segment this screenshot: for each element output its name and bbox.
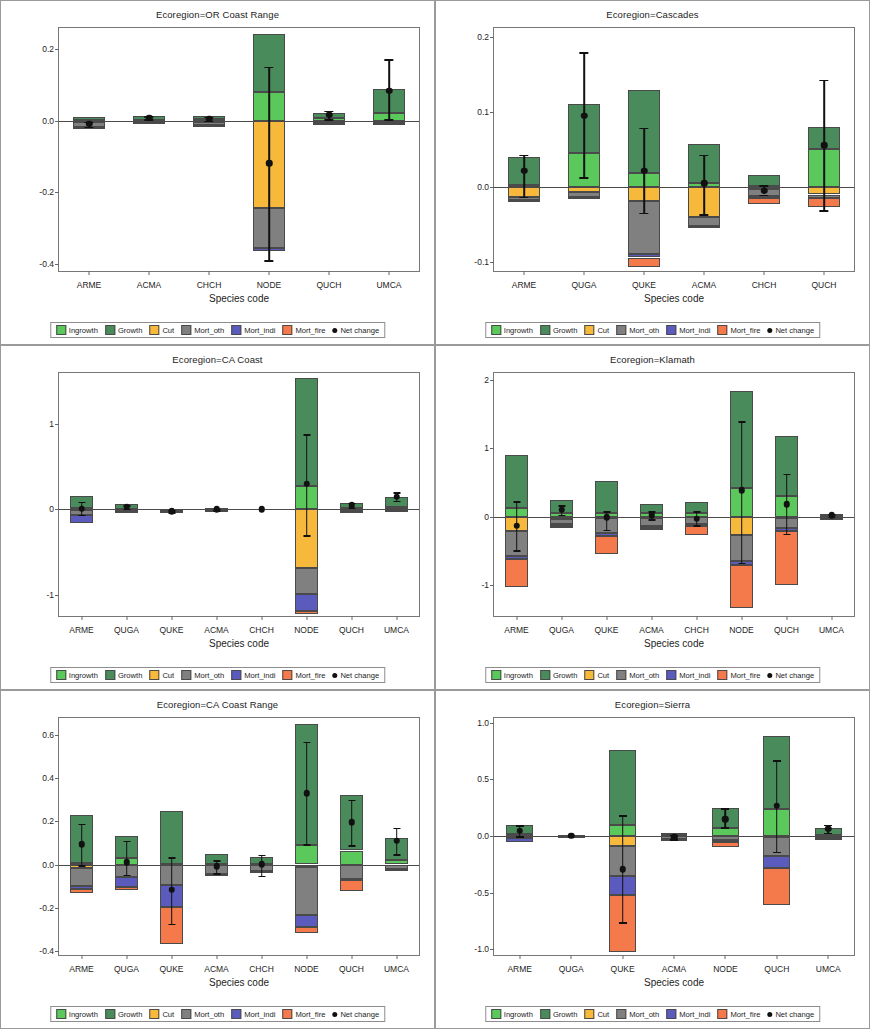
y-tick-label: 0.5 — [477, 774, 489, 784]
y-tick-mark — [490, 723, 494, 724]
bar-segment-mort_fire — [505, 559, 528, 587]
error-bar-cap — [393, 501, 400, 503]
x-tick-label: ACMA — [137, 280, 162, 290]
plot-area: 10-1ARMEQUGAQUKEACMACHCHNODEQUCHUMCA — [58, 372, 420, 617]
net-change-point — [258, 506, 265, 513]
x-tick-mark — [606, 616, 607, 620]
legend-label: Mort_fire — [730, 1010, 760, 1019]
legend-label: Growth — [553, 1010, 577, 1019]
y-tick-label: 0.0 — [477, 831, 489, 841]
error-bar-cap — [513, 501, 520, 503]
y-tick-label: 1 — [484, 443, 489, 453]
x-tick-mark — [126, 955, 127, 959]
legend-label: Growth — [118, 1010, 142, 1019]
legend-swatch-icon — [56, 1009, 66, 1019]
legend-swatch-icon — [105, 1009, 115, 1019]
x-tick-label: NODE — [729, 625, 754, 635]
y-tick-label: 0.1 — [477, 107, 489, 117]
legend-label: Mort_fire — [730, 326, 760, 335]
panel-title: Ecoregion=OR Coast Range — [1, 9, 434, 20]
y-tick-label: -1.0 — [474, 944, 489, 954]
legend-label: Growth — [553, 326, 577, 335]
legend-item: Ingrowth — [56, 1009, 98, 1019]
legend-label: Mort_oth — [629, 1010, 659, 1019]
net-change-point — [821, 142, 828, 149]
legend-label: Cut — [597, 671, 609, 680]
legend-swatch-icon — [149, 1009, 159, 1019]
net-change-point — [393, 838, 400, 845]
bar-segment-mort_indi — [763, 856, 790, 868]
error-bar-cap — [579, 52, 588, 54]
bar-segment-mort_fire — [748, 198, 779, 204]
x-tick-mark — [644, 271, 645, 275]
bar-segment-mort_indi — [193, 125, 224, 127]
bar-segment-mort_indi — [508, 200, 539, 202]
legend-item: Net change — [332, 1010, 379, 1019]
x-tick-label: QUKE — [159, 625, 183, 635]
x-tick-label: QUCH — [811, 280, 836, 290]
error-bar-cap — [824, 833, 832, 835]
net-change-point — [303, 481, 310, 488]
bar-segment-growth — [505, 455, 528, 508]
legend-item: Mort_oth — [616, 670, 659, 680]
legend: IngrowthGrowthCutMort_othMort_indiMort_f… — [485, 1006, 820, 1022]
error-bar-cap — [639, 128, 648, 130]
bar-segment-mort_fire — [628, 258, 659, 267]
x-tick-mark — [696, 616, 697, 620]
legend-label: Growth — [118, 326, 142, 335]
legend-swatch-icon — [181, 1009, 191, 1019]
x-axis-label: Species code — [493, 977, 855, 988]
x-tick-label: QUGA — [549, 625, 574, 635]
x-tick-label: CHCH — [197, 280, 222, 290]
x-tick-label: UMCA — [816, 964, 841, 974]
legend-label: Growth — [118, 671, 142, 680]
legend-swatch-icon — [491, 1009, 501, 1019]
y-tick-label: -1 — [46, 590, 54, 600]
legend-item: Ingrowth — [491, 325, 533, 335]
y-tick-label: 0.2 — [42, 44, 54, 54]
legend-swatch-icon — [717, 670, 727, 680]
legend-label: Mort_indi — [244, 326, 275, 335]
legend-swatch-icon — [717, 325, 727, 335]
error-bar-cap — [773, 852, 781, 854]
y-tick-mark — [55, 908, 59, 909]
legend-swatch-icon — [231, 325, 241, 335]
error-bar-cap — [819, 80, 828, 82]
legend-item: Mort_indi — [231, 670, 275, 680]
bar-segment-mort_indi — [373, 123, 404, 125]
legend-item: Mort_oth — [616, 325, 659, 335]
x-tick-label: ARME — [507, 964, 532, 974]
net-change-point — [258, 861, 265, 868]
bar-segment-mort_fire — [295, 611, 318, 614]
error-bar-cap — [78, 824, 85, 826]
bar-segment-mort_indi — [313, 123, 344, 125]
legend: IngrowthGrowthCutMort_othMort_indiMort_f… — [485, 667, 820, 683]
legend-label: Mort_fire — [730, 671, 760, 680]
y-tick-mark — [55, 595, 59, 596]
panel-title: Ecoregion=CA Coast Range — [1, 699, 434, 710]
legend-swatch-icon — [717, 1009, 727, 1019]
net-change-dot-icon — [767, 1012, 772, 1017]
bar-segment-mort_indi — [133, 122, 164, 124]
legend-label: Cut — [162, 671, 174, 680]
y-tick-label: 0.2 — [42, 816, 54, 826]
x-tick-mark — [725, 955, 726, 959]
error-bar-cap — [603, 530, 610, 532]
y-tick-label: 0.4 — [42, 773, 54, 783]
legend-label: Cut — [597, 326, 609, 335]
bar-segment-mort_fire — [730, 565, 753, 608]
net-change-point — [146, 114, 153, 121]
x-tick-label: ACMA — [204, 625, 229, 635]
legend-label: Mort_indi — [679, 326, 710, 335]
legend-item: Mort_indi — [666, 670, 710, 680]
error-bar-cap — [648, 519, 655, 521]
x-tick-mark — [674, 955, 675, 959]
legend-swatch-icon — [181, 325, 191, 335]
legend-item: Ingrowth — [56, 325, 98, 335]
error-bar-cap — [603, 511, 610, 513]
y-tick-mark — [490, 585, 494, 586]
bar-segment-growth — [609, 750, 636, 825]
legend-item: Mort_indi — [666, 1009, 710, 1019]
net-change-point — [348, 819, 355, 826]
y-tick-mark — [490, 112, 494, 113]
